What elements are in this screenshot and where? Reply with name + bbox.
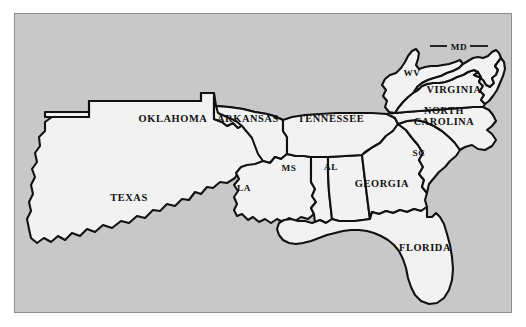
state-label-tennessee: TENNESSEE — [298, 113, 365, 124]
state-label-north-carolina-line2: CAROLINA — [414, 116, 474, 127]
state-label-north-carolina-line1: NORTH — [424, 105, 464, 116]
state-shape-florida[interactable] — [277, 207, 453, 304]
state-label-texas: TEXAS — [110, 192, 148, 203]
state-label-virginia: VIRGINIA — [426, 84, 481, 95]
state-label-south-carolina: SC — [413, 148, 426, 158]
state-label-louisiana: LA — [237, 183, 251, 193]
state-label-west-virginia: WV — [403, 68, 420, 78]
map-panel: TEXAS OKLAHOMA ARKANSAS LA MS AL TENNESS… — [14, 13, 512, 313]
state-label-arkansas: ARKANSAS — [217, 113, 279, 124]
state-label-maryland: MD — [451, 42, 468, 52]
map-svg: TEXAS OKLAHOMA ARKANSAS LA MS AL TENNESS… — [15, 14, 511, 312]
state-label-georgia: GEORGIA — [355, 178, 409, 189]
state-label-florida: FLORIDA — [399, 242, 451, 253]
map-figure: TEXAS OKLAHOMA ARKANSAS LA MS AL TENNESS… — [0, 0, 526, 327]
state-label-oklahoma: OKLAHOMA — [139, 113, 208, 124]
state-label-alabama: AL — [324, 162, 338, 172]
state-label-mississippi: MS — [282, 163, 297, 173]
